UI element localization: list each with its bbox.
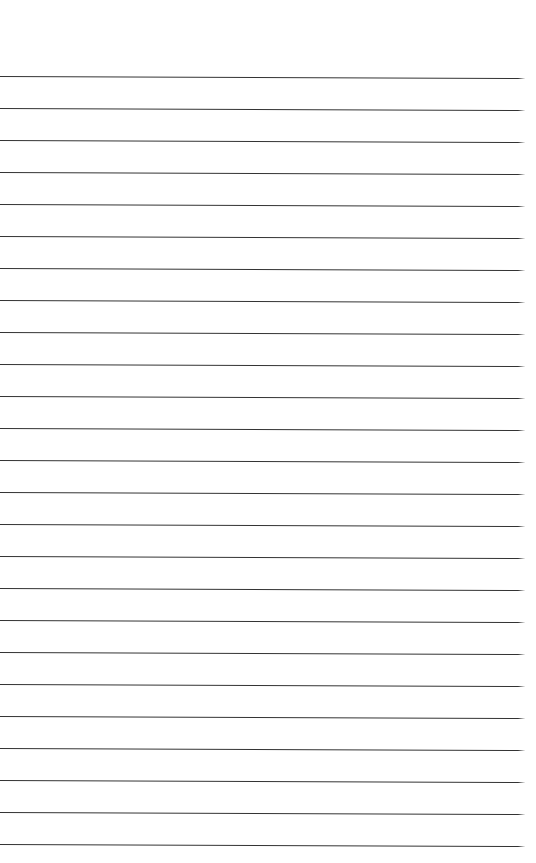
rule-line (0, 428, 528, 431)
rule-line (0, 844, 528, 847)
rule-line (0, 108, 528, 111)
rule-line (0, 76, 528, 79)
rule-line (0, 556, 528, 559)
right-page-margin (528, 0, 536, 863)
rule-line (0, 460, 528, 463)
rule-line (0, 588, 528, 591)
rule-line (0, 268, 528, 271)
rule-line (0, 748, 528, 751)
rule-line (0, 140, 528, 143)
rule-line (0, 492, 528, 495)
rule-line (0, 524, 528, 527)
ruled-lines-layer (0, 0, 536, 863)
rule-line (0, 812, 528, 815)
rule-line (0, 620, 528, 623)
rule-line (0, 172, 528, 175)
rule-line (0, 652, 528, 655)
rule-line (0, 204, 528, 207)
rule-line (0, 716, 528, 719)
rule-line (0, 364, 528, 367)
rule-line (0, 780, 528, 783)
lined-paper-page (0, 0, 536, 863)
rule-line (0, 300, 528, 303)
rule-line (0, 332, 528, 335)
rule-line (0, 396, 528, 399)
rule-line (0, 236, 528, 239)
rule-line (0, 684, 528, 687)
